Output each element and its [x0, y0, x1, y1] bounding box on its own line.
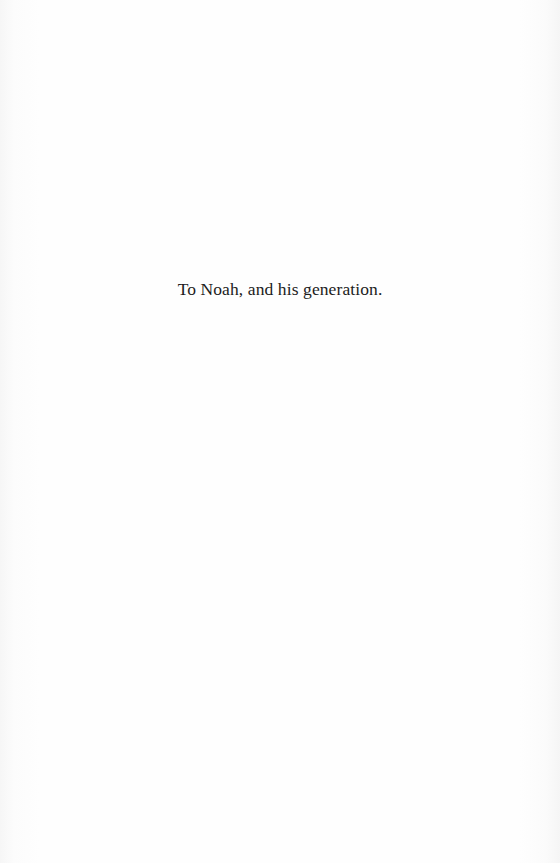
book-page: To Noah, and his generation.	[0, 0, 560, 863]
dedication-text: To Noah, and his generation.	[0, 277, 560, 301]
